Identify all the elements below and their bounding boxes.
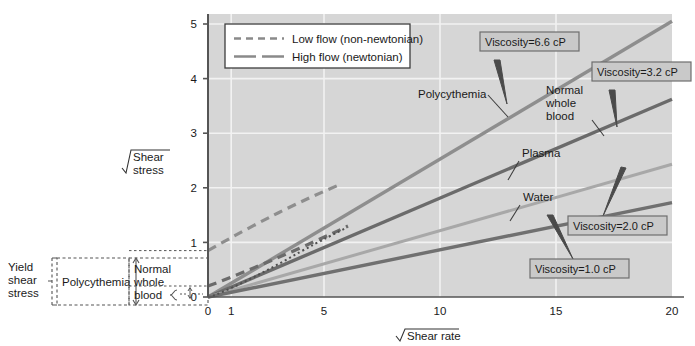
y-tick-label-1: 1	[191, 237, 197, 249]
bracket-label-yield-line2: shear	[8, 274, 37, 286]
chart-figure: 0 1 2 3 4 5 0 1 5 10 15 20 Shear rate Sh…	[0, 0, 695, 346]
x-tick-label-1: 1	[228, 305, 234, 317]
y-tick-label-2: 2	[191, 182, 197, 194]
legend-label-low-flow: Low flow (non-newtonian)	[292, 33, 423, 45]
callout-text-viscosity-3-2: Viscosity=3.2 cP	[597, 66, 678, 78]
x-tick-label-20: 20	[666, 305, 679, 317]
x-tick-label-5: 5	[321, 305, 327, 317]
y-axis-title-line2: stress	[133, 164, 164, 176]
y-tick-label-5: 5	[191, 18, 197, 30]
y-tick-label-4: 4	[191, 73, 198, 85]
annotation-label-water: Water	[523, 191, 553, 203]
y-tick-label-0: 0	[191, 291, 197, 303]
annotation-label-normal-line3: blood	[546, 110, 574, 122]
shear-stress-vs-shear-rate-chart: 0 1 2 3 4 5 0 1 5 10 15 20 Shear rate Sh…	[0, 0, 695, 346]
x-tick-label-15: 15	[550, 305, 563, 317]
x-axis-title-text: Shear rate	[407, 330, 461, 342]
bracket-label-yield-line1: Yield	[8, 261, 33, 273]
x-tick-label-10: 10	[434, 305, 447, 317]
annotation-label-normal-line2: whole	[545, 97, 576, 109]
annotation-label-normal-line1: Normal	[546, 84, 583, 96]
annotation-label-polycythemia: Polycythemia	[418, 88, 487, 100]
bracket-label-normal-line1: Normal	[134, 263, 171, 275]
y-tick-label-3: 3	[191, 127, 197, 139]
bracket-label-polycythemia: Polycythemia	[62, 276, 131, 288]
annotation-label-plasma: Plasma	[522, 147, 561, 159]
bracket-label-yield-line3: stress	[8, 287, 39, 299]
callout-text-viscosity-6-6: Viscosity=6.6 cP	[485, 36, 566, 48]
y-axis-title-line1: Shear	[133, 151, 164, 163]
callout-text-viscosity-1-0: Viscosity=1.0 cP	[535, 263, 616, 275]
bracket-label-normal-line3: blood	[134, 289, 162, 301]
x-tick-label-0: 0	[205, 305, 211, 317]
callout-text-viscosity-2-0: Viscosity=2.0 cP	[573, 220, 654, 232]
legend-label-high-flow: High flow (newtonian)	[292, 51, 403, 63]
chart-legend: Low flow (non-newtonian) High flow (newt…	[225, 24, 423, 68]
